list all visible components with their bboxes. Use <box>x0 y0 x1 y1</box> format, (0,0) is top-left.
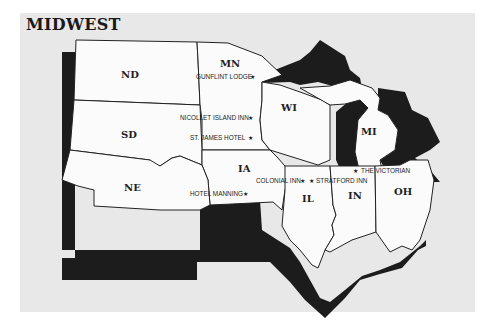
state-label-wi: WI <box>280 102 297 113</box>
state-ne[interactable] <box>62 150 210 210</box>
hotel-label-st-james[interactable]: ST. JAMES HOTEL <box>190 134 246 141</box>
star-icon: ★ <box>250 73 255 80</box>
state-label-il: IL <box>302 193 314 204</box>
state-label-in: IN <box>348 190 362 201</box>
state-label-sd: SD <box>121 129 137 140</box>
star-icon: ★ <box>353 167 358 174</box>
star-icon: ★ <box>300 177 305 184</box>
hotel-label-gunflint[interactable]: GUNFLINT LODGE <box>196 73 252 80</box>
hotel-label-nicollet[interactable]: NICOLLET ISLAND INN <box>180 114 249 121</box>
state-label-oh: OH <box>394 186 412 197</box>
state-label-mi: MI <box>361 126 377 137</box>
star-icon: ★ <box>248 134 253 141</box>
midwest-map: ND MN SD WI MI IA NE IL IN OH GUNFLINT L… <box>0 0 489 328</box>
hotel-label-victorian[interactable]: THE VICTORIAN <box>361 167 411 174</box>
hotel-label-colonial[interactable]: COLONIAL INN <box>256 177 301 184</box>
hotel-label-stratford[interactable]: STRATFORD INN <box>316 177 368 184</box>
state-label-nd: ND <box>121 69 139 80</box>
state-label-ia: IA <box>238 163 251 174</box>
hotel-label-manning[interactable]: HOTEL MANNING <box>190 190 243 197</box>
star-icon: ★ <box>309 177 314 184</box>
star-icon: ★ <box>243 190 248 197</box>
star-icon: ★ <box>248 114 253 121</box>
state-label-ne: NE <box>124 182 141 193</box>
state-label-mn: MN <box>220 58 240 69</box>
